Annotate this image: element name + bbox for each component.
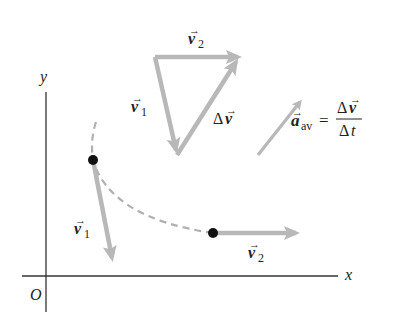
- triangle-v1-arrow: [155, 57, 176, 150]
- trajectory-path: [92, 122, 213, 233]
- svg-text:2: 2: [258, 251, 264, 265]
- v2-label-lower: v → 2: [248, 238, 264, 265]
- svg-text:av: av: [301, 119, 312, 133]
- average-acceleration-equation: a → av = Δ v → Δ t: [291, 93, 362, 139]
- triangle-v2-label: v → 2: [188, 24, 204, 51]
- y-axis-label: y: [38, 68, 48, 86]
- triangle-v1-label: v → 1: [131, 92, 147, 119]
- point-p1: [88, 155, 98, 165]
- svg-text:→: →: [350, 93, 361, 105]
- point-p2: [208, 228, 218, 238]
- x-axis-label: x: [344, 266, 352, 283]
- svg-text:→: →: [226, 104, 237, 116]
- svg-text:→: →: [292, 106, 303, 118]
- svg-text:1: 1: [141, 105, 147, 119]
- svg-text:Δ: Δ: [213, 110, 223, 127]
- origin-label: O: [30, 286, 42, 303]
- svg-text:→: →: [189, 24, 200, 36]
- svg-text:t: t: [351, 122, 356, 139]
- svg-text:=: =: [319, 111, 329, 130]
- triangle-delta-v-label: Δ v →: [213, 104, 237, 127]
- svg-text:Δ: Δ: [337, 99, 347, 116]
- svg-text:→: →: [132, 92, 143, 104]
- svg-text:→: →: [249, 238, 260, 250]
- svg-text:Δ: Δ: [339, 122, 349, 139]
- svg-text:1: 1: [84, 227, 90, 241]
- v1-label-lower: v → 1: [74, 214, 90, 241]
- svg-text:2: 2: [198, 37, 204, 51]
- diagram-canvas: y x O v → 1 v → 2 v → 2 v → 1 Δ v → a →: [0, 0, 397, 323]
- svg-text:→: →: [75, 214, 86, 226]
- v1-arrow-at-p1: [93, 160, 112, 258]
